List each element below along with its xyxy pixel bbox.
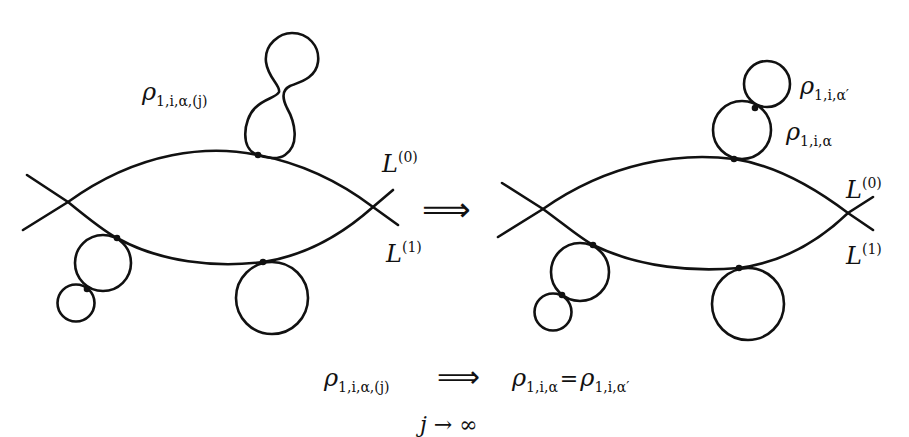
implies-arrow: ⟹ — [422, 192, 471, 226]
label-base: ρ — [800, 72, 814, 100]
node-point — [752, 105, 759, 112]
node-point — [260, 259, 267, 266]
label-subscript: 1,i,α — [526, 379, 558, 395]
label-rho-1-i-alpha-j: ρ1,i,α,(j) — [142, 80, 208, 108]
label-base: L — [846, 242, 862, 270]
label-L1-left: L(1) — [386, 240, 422, 266]
label-base: ρ — [786, 118, 800, 146]
node-point — [255, 152, 262, 159]
label-L0-right: L(0) — [846, 176, 882, 202]
label-subscript: 1,i,α,(j) — [338, 379, 389, 395]
node-point — [590, 242, 597, 249]
label-superscript: (0) — [398, 149, 418, 165]
node-point — [84, 286, 91, 293]
label-superscript: (1) — [862, 241, 882, 257]
label-base: ρ — [580, 364, 594, 392]
equals-sign: = — [560, 366, 578, 391]
label-rho-1-i-alpha-prime: ρ1,i,α′ — [800, 74, 849, 102]
bubble-right-bottom — [712, 268, 784, 340]
label-base: L — [846, 176, 862, 204]
node-point — [736, 265, 743, 272]
label-rho-1-i-alpha: ρ1,i,α — [786, 120, 832, 148]
bubble-lower-left-large — [75, 235, 131, 291]
bubble-rho-alpha — [713, 101, 771, 159]
label-L1-right: L(1) — [846, 242, 882, 268]
caption-rhs: ρ1,i,α=ρ1,i,α′ — [512, 366, 629, 394]
node-point — [114, 235, 121, 242]
label-base: ρ — [512, 364, 526, 392]
bubble-bottom — [236, 262, 308, 334]
label-base: L — [386, 240, 402, 268]
lagrangian-L0-right — [498, 157, 873, 237]
label-base: ρ — [324, 364, 338, 392]
label-superscript: (1) — [402, 239, 422, 255]
caption-limit: j → ∞ — [420, 414, 478, 436]
caption-implies-arrow: ⟹ — [437, 362, 480, 392]
label-L0-left: L(0) — [382, 150, 418, 176]
label-subscript: 1,i,α — [800, 133, 832, 149]
caption-lhs: ρ1,i,α,(j) — [324, 366, 390, 394]
label-superscript: (0) — [862, 175, 882, 191]
label-base: ρ — [142, 78, 156, 106]
label-subscript: 1,i,α,(j) — [156, 93, 207, 109]
lagrangian-L0-left — [23, 151, 398, 230]
bubble-peanut — [245, 33, 318, 158]
bubble-right-lower-left-large — [551, 243, 609, 301]
lagrangian-L1-left — [27, 175, 393, 264]
node-point — [559, 292, 566, 299]
label-subscript: 1,i,α′ — [594, 379, 629, 395]
bubble-rho-alpha-prime — [744, 61, 790, 107]
label-base: L — [382, 150, 398, 178]
label-subscript: 1,i,α′ — [814, 87, 849, 103]
bubble-right-lower-left-small — [535, 294, 572, 331]
lagrangian-L1-right — [502, 183, 873, 269]
node-point — [731, 156, 738, 163]
